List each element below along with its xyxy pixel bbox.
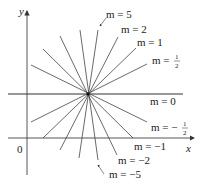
label-mneg1: m = −1 (134, 140, 166, 152)
label-mneghalf-den: 2 (183, 129, 187, 137)
label-m1: m = 1 (137, 36, 163, 48)
label-m5: m = 5 (106, 8, 132, 20)
label-mneg5: m = −5 (109, 168, 141, 180)
label-mneghalf-num: 1 (183, 120, 187, 128)
center-point (86, 92, 89, 95)
slope-lines-diagram: y x 0 m = 5 m = 2 m = 1 m = 1 2 m = 0 m … (0, 0, 200, 189)
label-mneg2: m = −2 (118, 154, 150, 166)
origin-label: 0 (17, 143, 23, 155)
label-m2: m = 2 (121, 23, 147, 35)
label-mhalf-den: 2 (175, 62, 179, 70)
y-axis-label: y (18, 5, 24, 17)
x-axis-label: x (185, 142, 191, 154)
label-mhalf: m = (152, 54, 170, 66)
label-m0: m = 0 (150, 95, 176, 107)
leader-mneg5 (98, 165, 104, 174)
label-mhalf-num: 1 (175, 53, 179, 61)
label-mneghalf: m = − (151, 121, 177, 133)
